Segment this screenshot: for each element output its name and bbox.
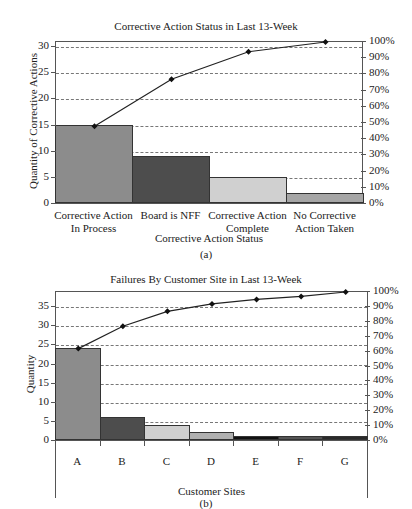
y2-tick-label: 60% [373, 344, 412, 356]
y2-tick-label: 10% [373, 418, 412, 430]
x-separator-tick [278, 440, 279, 446]
x-separator-tick [100, 440, 101, 446]
y2-tick-label: 0% [373, 433, 412, 445]
y2-tick-mark [365, 321, 370, 322]
x-separator-tick [189, 440, 190, 446]
y-tick-label: 10 [25, 395, 49, 407]
y-tick-mark [51, 402, 56, 403]
cumulative-marker-diamond-icon [164, 308, 170, 314]
y-tick-label: 0 [25, 433, 49, 445]
y2-tick-label: 70% [373, 329, 412, 341]
y2-tick-mark [365, 306, 370, 307]
cumulative-marker-diamond-icon [298, 293, 304, 299]
y2-tick-mark [365, 366, 370, 367]
y-tick-mark [51, 344, 56, 345]
chart-b-xlabel: Customer Sites [55, 485, 368, 497]
y2-tick-mark [365, 291, 370, 292]
y-tick-mark [51, 383, 56, 384]
cumulative-marker-diamond-icon [209, 301, 215, 307]
x-separator-tick [233, 440, 234, 446]
y2-tick-label: 90% [373, 299, 412, 311]
y2-tick-mark [365, 351, 370, 352]
cumulative-marker-diamond-icon [75, 346, 81, 352]
y-tick-mark [51, 306, 56, 307]
y-tick-mark [51, 421, 56, 422]
y2-tick-mark [365, 410, 370, 411]
y2-tick-label: 100% [373, 284, 412, 296]
y-tick-mark [51, 364, 56, 365]
y-tick-mark [51, 325, 56, 326]
x-separator-tick [322, 440, 323, 446]
cumulative-marker-diamond-icon [254, 296, 260, 302]
y2-tick-label: 20% [373, 403, 412, 415]
y-tick-label: 20 [25, 357, 49, 369]
cumulative-marker-diamond-icon [120, 323, 126, 329]
chart-b: Failures By Customer Site in Last 13-Wee… [0, 0, 412, 509]
y2-tick-label: 50% [373, 359, 412, 371]
x-separator-tick [144, 440, 145, 446]
y2-tick-mark [365, 336, 370, 337]
y2-tick-label: 40% [373, 373, 412, 385]
y-tick-label: 35 [25, 299, 49, 311]
cumulative-percent-line [56, 292, 368, 441]
cumulative-marker-diamond-icon [343, 289, 349, 295]
y-tick-label: 5 [25, 414, 49, 426]
x-category-label: G [316, 455, 373, 468]
y-tick-label: 15 [25, 376, 49, 388]
y2-tick-mark [365, 380, 370, 381]
y2-tick-mark [365, 395, 370, 396]
chart-b-plot-area [55, 291, 368, 441]
y-tick-label: 25 [25, 337, 49, 349]
y2-tick-mark [365, 425, 370, 426]
y2-tick-label: 30% [373, 388, 412, 400]
y2-tick-label: 80% [373, 314, 412, 326]
chart-b-title: Failures By Customer Site in Last 13-Wee… [0, 273, 412, 285]
chart-b-caption: (b) [0, 497, 412, 509]
y-tick-label: 30 [25, 318, 49, 330]
